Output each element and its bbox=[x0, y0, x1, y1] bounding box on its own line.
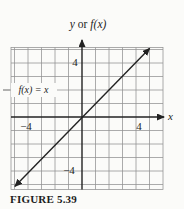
tick-label-x-4: 4 bbox=[133, 121, 145, 132]
x-axis-label: x bbox=[168, 111, 173, 122]
line-equation-label: f(x) = x bbox=[11, 83, 57, 97]
tick-label-y-neg4: −4 bbox=[60, 165, 78, 176]
tick-label-y-4: 4 bbox=[70, 57, 80, 68]
graph-canvas bbox=[0, 0, 184, 209]
y-axis-title-conjunction: or bbox=[78, 19, 88, 31]
grid bbox=[11, 48, 163, 190]
y-axis-title-var-fx: f(x) bbox=[90, 19, 106, 31]
figure-caption: FIGURE 5.39 bbox=[10, 194, 77, 205]
tick-label-x-neg4: −4 bbox=[17, 121, 35, 132]
y-axis-title-var-y: y bbox=[70, 19, 75, 31]
y-axis-title: y or f(x) bbox=[58, 19, 118, 31]
figure-5-39: y or f(x) 4 −4 −4 4 x f(x) = x FIGURE 5.… bbox=[0, 0, 184, 209]
